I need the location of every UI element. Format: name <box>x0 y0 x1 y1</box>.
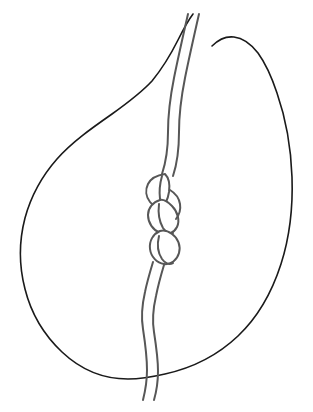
cord-lower-segment <box>142 262 164 400</box>
cord-lower-left-strand <box>142 262 153 400</box>
cord-upper-right-strand <box>173 14 199 176</box>
chain-knot-group <box>146 174 180 264</box>
line-drawing-svg: Knotted cord passing through a teardrop … <box>0 0 313 412</box>
cord-upper-segment <box>162 14 199 176</box>
knot-loop-3 <box>150 231 180 265</box>
cord-upper-left-strand <box>162 14 188 174</box>
figure-canvas: Knotted cord passing through a teardrop … <box>0 0 313 412</box>
cord-lower-right-strand <box>153 265 164 400</box>
